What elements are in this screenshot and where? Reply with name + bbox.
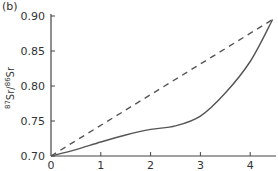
x-tick-label: 3 bbox=[197, 159, 204, 171]
y-tick-label: 0.90 bbox=[21, 10, 46, 23]
y-axis-label: 87Sr/86Sr bbox=[4, 66, 16, 109]
line-chart: 0.700.750.800.850.900123487Sr/86Sr bbox=[0, 0, 278, 171]
x-tick-label: 0 bbox=[48, 159, 55, 171]
y-tick-label: 0.70 bbox=[21, 150, 46, 163]
y-tick-label: 0.80 bbox=[21, 80, 46, 93]
x-tick-label: 4 bbox=[247, 159, 254, 171]
x-tick-label: 1 bbox=[97, 159, 104, 171]
y-tick-label: 0.85 bbox=[21, 45, 46, 58]
series-dashed-line bbox=[51, 20, 273, 157]
y-tick-label: 0.75 bbox=[21, 115, 46, 128]
x-tick-label: 2 bbox=[147, 159, 154, 171]
